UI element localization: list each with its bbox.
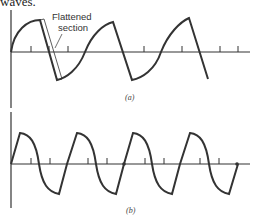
panel-b-caption: (b) xyxy=(126,206,136,215)
annotation-leader-line xyxy=(55,34,62,48)
annotation-label-line1: Flattened xyxy=(52,11,92,22)
panel-a-caption: (a) xyxy=(125,93,135,102)
panel-b: (b) xyxy=(11,112,250,215)
annotation-label-line2: section xyxy=(58,22,88,33)
panel-a-ticks xyxy=(31,46,238,52)
waveform-diagram: Flattened section (a) (b) xyxy=(0,0,253,218)
panel-a-wave xyxy=(11,18,208,80)
panel-a: Flattened section (a) xyxy=(11,10,250,108)
